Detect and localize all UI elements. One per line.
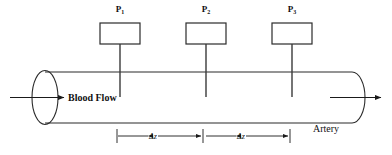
pressure-gauge-2[interactable]: P2: [186, 4, 226, 97]
gauge-3-box[interactable]: [272, 23, 312, 44]
gauge-1-label: P1: [116, 4, 125, 15]
pressure-gauge-3[interactable]: P3: [272, 4, 312, 97]
dimension-span-1: Δz: [117, 129, 203, 143]
gauge-2-label: P2: [202, 4, 211, 15]
artery-flow-diagram: P1 P2 P3 Blood Flow Artery Δz: [0, 0, 392, 155]
dimension-span-2: Δz: [206, 129, 290, 143]
gauge-2-box[interactable]: [186, 23, 226, 44]
dim-1-label: Δz: [148, 132, 158, 141]
dim-2-label: Δz: [236, 132, 246, 141]
gauge-3-label: P3: [288, 4, 297, 15]
gauge-1-box[interactable]: [100, 23, 140, 44]
diagram-canvas: P1 P2 P3 Blood Flow Artery Δz: [0, 0, 392, 155]
artery-label: Artery: [313, 123, 339, 134]
pressure-gauge-1[interactable]: P1: [100, 4, 140, 97]
blood-flow-label: Blood Flow: [68, 92, 117, 103]
